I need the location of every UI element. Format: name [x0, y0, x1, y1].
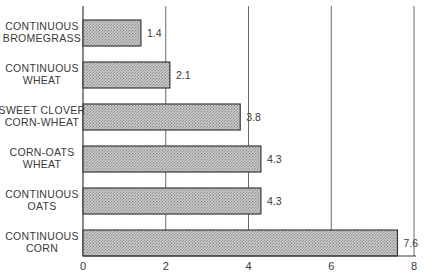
bar: [83, 104, 240, 130]
tick-labels: 02468: [80, 260, 417, 272]
value-label: 4.3: [267, 195, 282, 207]
category-label: CONTINUOUSCORN: [5, 230, 79, 254]
category-label: CONTINUOUSBROMEGRASS: [3, 20, 81, 44]
x-tick-label: 2: [163, 260, 169, 272]
value-label: 3.8: [246, 111, 261, 123]
value-label: 1.4: [147, 27, 162, 39]
bar: [83, 20, 141, 46]
bars: [83, 20, 397, 256]
value-labels: 1.42.13.84.34.37.6: [147, 27, 418, 249]
x-tick-label: 8: [411, 260, 417, 272]
x-tick-label: 6: [328, 260, 334, 272]
bar: [83, 146, 261, 172]
x-tick-label: 4: [245, 260, 251, 272]
bar: [83, 188, 261, 214]
x-tick-label: 0: [80, 260, 86, 272]
category-label: CONTINUOUSWHEAT: [5, 62, 79, 86]
bar: [83, 62, 170, 88]
bar: [83, 230, 397, 256]
value-label: 2.1: [176, 69, 191, 81]
category-labels: CONTINUOUSBROMEGRASSCONTINUOUSWHEATSWEET…: [0, 20, 86, 254]
value-label: 4.3: [267, 153, 282, 165]
bar-chart: CONTINUOUSBROMEGRASSCONTINUOUSWHEATSWEET…: [0, 0, 424, 277]
category-label: CORN-OATSWHEAT: [10, 146, 75, 170]
category-label: SWEET CLOVERCORN-WHEAT: [0, 104, 86, 128]
value-label: 7.6: [403, 237, 418, 249]
category-label: CONTINUOUSOATS: [5, 188, 79, 212]
